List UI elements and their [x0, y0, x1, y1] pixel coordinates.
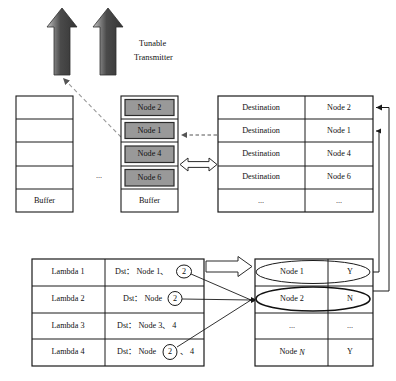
node-status-node-2: ...: [289, 321, 295, 330]
lambda-dst-circled-0: 2: [182, 267, 186, 276]
node-block-0[interactable]: Node 2: [125, 100, 174, 116]
node-status-value-1: N: [347, 294, 353, 303]
lambda-dst-tail-3: 、 4: [180, 347, 194, 356]
destination-label-3: Destination: [242, 172, 280, 181]
destination-label-2: Destination: [242, 149, 280, 158]
destination-value-0: Node 2: [327, 103, 351, 112]
node-block-1[interactable]: Node 1: [125, 123, 174, 139]
node-block-label-0: Node 2: [138, 103, 162, 112]
lambda-dst-circled-3: 2: [168, 347, 172, 356]
lambda-dst-3: Dst： Node: [117, 347, 157, 356]
columns-ellipsis: ...: [96, 171, 102, 180]
node-status-value-0: Y: [347, 267, 353, 276]
lambda-label-3: Lambda 4: [52, 347, 85, 356]
node-block-2[interactable]: Node 4: [125, 146, 174, 163]
node-block-3[interactable]: Node 6: [125, 170, 174, 187]
destination-label-1: Destination: [242, 126, 280, 135]
node-status-value-2: ...: [347, 321, 353, 330]
lambda-dst-0: Dst： Node 1、: [115, 267, 168, 276]
destination-label-0: Destination: [242, 103, 280, 112]
feedback-route-node1: [373, 131, 379, 272]
lambda-dst-1: Dst： Node: [123, 294, 163, 303]
map-block-arrow: [206, 257, 252, 277]
node-status-node-1: Node 2: [280, 294, 304, 303]
destination-table: Destination Node 2 Destination Node 1 De…: [218, 96, 373, 212]
node-block-label-3: Node 6: [138, 173, 162, 182]
node-buffer-label: Buffer: [139, 196, 160, 205]
lambda-label-2: Lambda 3: [52, 321, 85, 330]
node-block-label-2: Node 4: [138, 149, 162, 158]
transmitter-arrow-right: [93, 8, 123, 75]
destination-value-3: Node 6: [327, 172, 351, 181]
left-buffer-column: Buffer: [16, 96, 73, 212]
node-status-table: Node 1 Y Node 2 N ... ... Node N Y: [255, 259, 373, 366]
lambda-dst-circled-1: 2: [173, 294, 177, 303]
exchange-double-arrow: [180, 158, 217, 171]
feedback-route-node2: [373, 108, 389, 292]
lambda-label-1: Lambda 2: [52, 294, 85, 303]
node-status-node-3: Node N: [279, 347, 305, 356]
destination-label-4: ...: [258, 196, 264, 205]
left-buffer-label: Buffer: [34, 196, 55, 205]
destination-value-2: Node 4: [327, 149, 351, 158]
tunable-transmitter-label-line1: Tunable: [139, 39, 166, 48]
transmitter-arrow-left: [47, 8, 77, 75]
destination-value-1: Node 1: [327, 126, 351, 135]
node-status-value-3: Y: [347, 347, 353, 356]
destination-value-4: ...: [336, 196, 342, 205]
node-buffer-column: Node 2 Node 1 Node 4 Node 6 Buffer: [121, 96, 178, 212]
lambda-dst-2: Dst： Node 3、 4: [117, 321, 176, 330]
tunable-transmitter-label-line2: Transmitter: [134, 53, 173, 62]
lambda-table: Lambda 1 Dst： Node 1、 2 Lambda 2 Dst： No…: [32, 259, 204, 366]
node-status-node-0: Node 1: [280, 267, 304, 276]
diagram-canvas: Tunable Transmitter Buffer ... Node 2 No…: [0, 0, 396, 381]
lambda-label-0: Lambda 1: [52, 267, 85, 276]
node-block-label-1: Node 1: [138, 126, 162, 135]
